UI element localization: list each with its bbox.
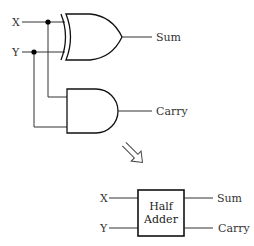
and-body — [67, 89, 118, 133]
xor-back-curve — [61, 14, 66, 60]
block-input-y-label: Y — [99, 222, 108, 235]
carry-output-label: Carry — [156, 105, 188, 118]
block-output-carry-label: Carry — [218, 222, 250, 235]
block-input-x-label: X — [100, 192, 108, 205]
xor-gate — [61, 14, 122, 60]
input-x-label: X — [12, 16, 20, 29]
input-y-label: Y — [11, 46, 20, 59]
half-adder-title-line1: Half — [149, 200, 174, 213]
hollow-arrow-down-right-icon — [119, 139, 147, 167]
wire-x-to-and — [48, 22, 67, 97]
wire-y-to-and — [34, 52, 67, 127]
gate-level-circuit: X Y Sum Carry — [11, 14, 188, 133]
block-output-sum-label: Sum — [217, 192, 243, 205]
half-adder-diagram: X Y Sum Carry X Y — [0, 0, 254, 246]
junction-dot-y — [31, 49, 36, 54]
and-gate — [67, 89, 118, 133]
arrow-shape — [119, 139, 147, 167]
half-adder-block: X Y Half Adder Sum Carry — [99, 190, 250, 236]
sum-output-label: Sum — [156, 31, 182, 44]
xor-body — [66, 14, 122, 60]
junction-dot-x — [45, 19, 50, 24]
half-adder-title-line2: Adder — [143, 213, 179, 226]
